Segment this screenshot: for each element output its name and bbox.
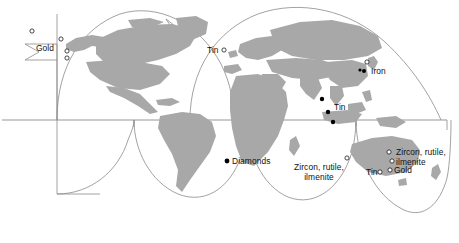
label-zircon-west-australia: Zircon, rutile, ilmenite <box>292 163 346 182</box>
land-iberia <box>224 64 242 74</box>
land-philippines <box>362 90 372 102</box>
marker-iron-east-asia-filled-1 <box>358 68 361 71</box>
marker-tin-southeast-asia-3 <box>331 120 335 124</box>
label-iron-east-asia: Iron <box>371 67 386 77</box>
marker-iron-east-asia-open <box>365 60 369 64</box>
marker-tin-southeast-asia-2 <box>326 110 330 114</box>
land-tasmania <box>398 178 407 186</box>
marker-zircon-east-australia-2 <box>390 159 394 163</box>
land-siberia <box>270 20 382 60</box>
land-east-asia <box>324 60 368 88</box>
land-india <box>300 78 322 100</box>
label-tin-southeast-asia: Tin <box>334 103 346 113</box>
land-united-states <box>86 60 170 90</box>
land-mexico <box>106 86 158 114</box>
land-africa <box>230 74 288 166</box>
marker-tin-southeast-australia-1 <box>378 170 382 174</box>
marker-gold-north-america-4 <box>65 56 69 60</box>
land-caribbean <box>156 98 180 106</box>
label-tin-southeast-australia: Tin <box>366 168 378 178</box>
projection-frame <box>2 7 451 212</box>
label-gold-southeast-australia: Gold <box>394 166 412 176</box>
label-tin-europe: Tin <box>207 46 219 56</box>
map-graphic <box>0 0 459 243</box>
marker-gold-north-america-2 <box>59 37 63 41</box>
marker-zircon-east-australia-1 <box>387 150 391 154</box>
marker-tin-europe-1 <box>222 48 226 52</box>
world-mineral-deposits-map: Gold Tin Iron Tin Diamonds Zircon, rutil… <box>0 0 459 243</box>
label-diamonds-africa: Diamonds <box>232 157 271 167</box>
marker-gold-north-america-1 <box>30 29 34 33</box>
marker-gold-southeast-australia-1 <box>388 168 392 172</box>
land-south-america <box>158 112 216 192</box>
marker-diamonds-africa-1 <box>225 159 230 164</box>
marker-iron-east-asia-filled-2 <box>362 69 366 73</box>
marker-tin-southeast-asia-1 <box>320 97 324 101</box>
notch-left <box>25 44 57 120</box>
land-british-isles <box>228 50 238 58</box>
land-new-guinea <box>376 116 406 128</box>
marker-gold-north-america-3 <box>65 49 69 53</box>
marker-zircon-west-australia-1 <box>345 156 349 160</box>
label-gold-north-america: Gold <box>36 44 54 54</box>
lobe-arc-south-pacific <box>57 120 134 194</box>
land-madagascar <box>289 136 300 156</box>
